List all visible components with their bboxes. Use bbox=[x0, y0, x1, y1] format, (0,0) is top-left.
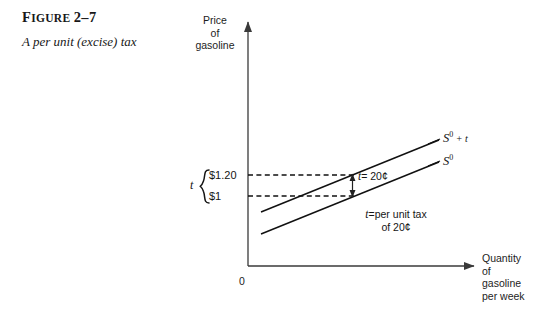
origin-label: 0 bbox=[239, 275, 245, 287]
tax-note-line1: t=per unit tax bbox=[330, 208, 462, 221]
brace-tax-label: t bbox=[190, 178, 193, 193]
supply-curve-taxed-label: S0 + t bbox=[443, 130, 468, 146]
x-axis-label: Quantity of gasoline per week bbox=[482, 252, 550, 302]
tax-brace bbox=[200, 170, 209, 203]
y-axis-label-line1: Price bbox=[186, 14, 244, 27]
y-axis-label-line2: of bbox=[186, 27, 244, 40]
tax-gap-label: t= 20¢ bbox=[358, 170, 388, 182]
supply-taxed-plus: + t bbox=[453, 133, 468, 144]
tax-gap-value: = 20¢ bbox=[361, 170, 388, 182]
y-axis-label-line3: gasoline bbox=[186, 39, 244, 52]
x-axis-label-line1: Quantity bbox=[482, 252, 550, 265]
supply-curve-base-label: S0 bbox=[443, 153, 453, 169]
tax-note: t=per unit tax of 20¢ bbox=[330, 208, 462, 234]
price-label-high: $1.20 bbox=[209, 169, 237, 181]
figure-page: FIGURE 2–7 A per unit (excise) tax bbox=[0, 0, 553, 316]
supply-base-sup: 0 bbox=[449, 153, 453, 162]
y-axis-label: Price of gasoline bbox=[186, 14, 244, 52]
supply-tax-diagram bbox=[0, 0, 553, 316]
tax-note-text: =per unit tax bbox=[369, 208, 427, 220]
supply-curve-taxed bbox=[261, 140, 439, 212]
x-axis-label-line2: of bbox=[482, 265, 550, 278]
x-axis-label-line4: per week bbox=[482, 290, 550, 303]
x-axis-label-line3: gasoline bbox=[482, 277, 550, 290]
tax-note-line2: of 20¢ bbox=[330, 221, 462, 234]
leader-taxed bbox=[428, 139, 440, 144]
leader-base bbox=[428, 161, 440, 166]
price-label-low: $1 bbox=[209, 190, 221, 202]
